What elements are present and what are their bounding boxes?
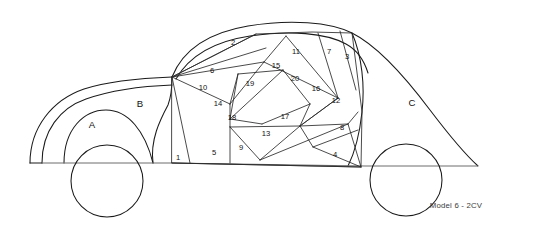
region-label-14: 14 [214,99,222,108]
region-label-c: C [409,97,416,108]
region-label-12: 12 [332,96,340,105]
front-wheel [71,145,143,217]
region-label-3: 3 [345,52,349,61]
subdivision-ring-2 [172,34,266,104]
region-label-a: A [89,119,96,130]
region-label-18: 18 [228,113,236,122]
region-label-b: B [137,98,143,109]
region-label-4: 4 [333,150,337,159]
region-label-20: 20 [291,74,299,83]
region-label-8: 8 [340,123,344,132]
region-label-5: 5 [212,148,216,157]
region-label-1: 1 [176,153,180,162]
region-label-10: 10 [199,83,207,92]
region-label-19: 19 [246,79,254,88]
region-label-9: 9 [239,143,243,152]
region-label-11: 11 [292,47,300,56]
region-label-7: 7 [327,47,331,56]
cabin-roof [172,22,478,166]
figure-caption: Model 6 - 2CV [430,201,483,210]
region-label-2: 2 [231,38,235,47]
figure-canvas: 1 2 3 4 5 6 7 8 9 10 11 12 13 14 15 16 1… [0,0,534,227]
region-label-15: 15 [272,61,280,70]
region-label-13: 13 [262,129,270,138]
region-label-16: 16 [312,84,320,93]
car-line-drawing: 1 2 3 4 5 6 7 8 9 10 11 12 13 14 15 16 1… [0,0,534,227]
region-letter-labels: A B C [89,97,416,130]
region-label-6: 6 [210,66,214,75]
region-label-17: 17 [281,112,289,121]
car-outline [30,77,172,163]
